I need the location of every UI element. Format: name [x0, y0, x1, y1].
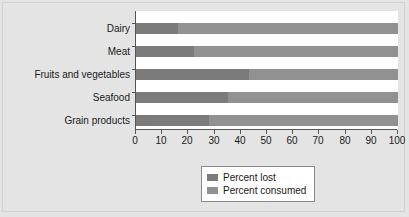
x-axis-tick	[161, 130, 162, 134]
bar-segment-percent-lost[interactable]	[136, 23, 178, 34]
x-axis-tick-label: 40	[228, 135, 252, 147]
bar-segment-percent-consumed[interactable]	[228, 92, 398, 103]
x-axis-tick	[240, 130, 241, 134]
table-row[interactable]	[136, 92, 398, 103]
table-row[interactable]	[136, 46, 398, 57]
category-label-fruits-and-vegetables: Fruits and vegetables	[34, 69, 130, 80]
legend: Percent lost Percent consumed	[201, 166, 315, 202]
x-axis-tick	[214, 130, 215, 134]
plot-area	[135, 11, 398, 129]
legend-label: Percent lost	[223, 172, 276, 183]
category-label-meat: Meat	[108, 46, 130, 57]
bar-segment-percent-lost[interactable]	[136, 92, 228, 103]
bar-segment-percent-lost[interactable]	[136, 46, 194, 57]
x-axis-tick-label: 10	[149, 135, 173, 147]
category-label-seafood: Seafood	[93, 92, 130, 103]
x-axis-tick	[135, 130, 136, 134]
category-label-grain-products: Grain products	[64, 115, 130, 126]
bar-segment-percent-consumed[interactable]	[249, 69, 398, 80]
category-label-dairy: Dairy	[107, 23, 130, 34]
x-axis-tick	[266, 130, 267, 134]
legend-item-percent-lost[interactable]: Percent lost	[207, 171, 306, 184]
bar-segment-percent-consumed[interactable]	[194, 46, 398, 57]
bar-segment-percent-lost[interactable]	[136, 115, 209, 126]
x-axis-tick	[397, 130, 398, 134]
x-axis-tick-label: 50	[254, 135, 278, 147]
x-axis-tick-label: 70	[306, 135, 330, 147]
legend-swatch-icon	[207, 174, 218, 181]
legend-item-percent-consumed[interactable]: Percent consumed	[207, 184, 306, 197]
x-axis-tick	[292, 130, 293, 134]
x-axis-tick-label: 100	[385, 135, 409, 147]
x-axis-tick-label: 0	[123, 135, 147, 147]
table-row[interactable]	[136, 115, 398, 126]
x-axis-tick-label: 30	[202, 135, 226, 147]
bar-segment-percent-consumed[interactable]	[209, 115, 398, 126]
legend-swatch-icon	[207, 187, 218, 194]
x-axis-tick	[345, 130, 346, 134]
x-axis-tick	[187, 130, 188, 134]
x-axis-tick-label: 80	[333, 135, 357, 147]
legend-label: Percent consumed	[223, 185, 306, 196]
table-row[interactable]	[136, 69, 398, 80]
x-axis-tick-label: 60	[280, 135, 304, 147]
x-axis-tick	[318, 130, 319, 134]
x-axis-tick	[371, 130, 372, 134]
table-row[interactable]	[136, 23, 398, 34]
x-axis-tick-label: 20	[175, 135, 199, 147]
bar-chart: Dairy Meat Fruits and vegetables Seafood…	[0, 0, 409, 217]
bar-segment-percent-lost[interactable]	[136, 69, 249, 80]
bar-segment-percent-consumed[interactable]	[178, 23, 398, 34]
x-axis-tick-label: 90	[359, 135, 383, 147]
